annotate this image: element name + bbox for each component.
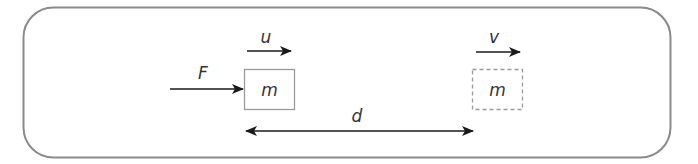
diagram-canvas: F u m v m d xyxy=(0,0,698,164)
diagram-frame xyxy=(24,8,671,158)
mass-label-initial: m xyxy=(261,80,278,100)
distance-label: d xyxy=(352,106,363,126)
mass-label-final: m xyxy=(489,80,506,100)
force-label: F xyxy=(198,63,208,83)
initial-velocity-label: u xyxy=(261,27,272,47)
final-velocity-label: v xyxy=(489,27,500,47)
